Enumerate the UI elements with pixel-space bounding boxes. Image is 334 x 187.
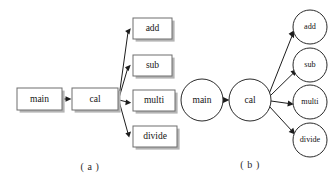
caption-panel-b: ( b ) (240, 159, 260, 171)
node-main-a-label: main (30, 94, 49, 104)
node-multi-a[interactable]: multi (133, 90, 178, 114)
diagram-canvas: main cal add sub (0, 0, 334, 187)
node-sub-b-label: sub (304, 60, 315, 69)
node-add-a[interactable]: add (133, 18, 175, 42)
node-add-a-label: add (146, 23, 160, 33)
edge-b-cal-to-multi (271, 101, 290, 104)
node-sub-a[interactable]: sub (133, 55, 175, 79)
node-main-b-label: main (193, 95, 212, 105)
node-divide-a[interactable]: divide (133, 126, 180, 150)
node-sub-b[interactable]: sub (293, 48, 327, 82)
arrowhead-cal-to-multi (125, 100, 131, 106)
node-sub-a-label: sub (146, 60, 159, 70)
node-multi-b-label: multi (301, 97, 319, 106)
node-multi-b[interactable]: multi (293, 85, 327, 119)
edge-b-cal-to-divide (269, 106, 292, 131)
edge-b-cal-to-sub (270, 73, 294, 96)
node-cal-a-label: cal (89, 94, 100, 104)
node-add-b[interactable]: add (293, 10, 327, 44)
node-divide-b-label: divide (300, 135, 321, 144)
edge-cal-to-add (119, 31, 128, 97)
panel-a-group: main cal add sub (17, 18, 180, 173)
figure-root: main cal add sub (0, 0, 334, 187)
node-divide-a-label: divide (143, 131, 167, 141)
panel-a-edges (63, 28, 131, 137)
panel-b-group: main cal add sub multi (181, 10, 327, 171)
node-divide-b[interactable]: divide (293, 123, 327, 157)
node-multi-a-label: multi (144, 95, 164, 105)
node-cal-b-label: cal (244, 95, 255, 105)
node-add-b-label: add (304, 22, 316, 31)
arrowhead-main-to-cal (66, 96, 72, 102)
node-main-b[interactable]: main (181, 79, 223, 121)
node-cal-a[interactable]: cal (72, 88, 121, 113)
node-main-a[interactable]: main (17, 88, 65, 113)
caption-panel-a: ( a ) (80, 161, 99, 173)
arrowhead-cal-to-sub (125, 65, 131, 72)
node-cal-b[interactable]: cal (229, 79, 271, 121)
